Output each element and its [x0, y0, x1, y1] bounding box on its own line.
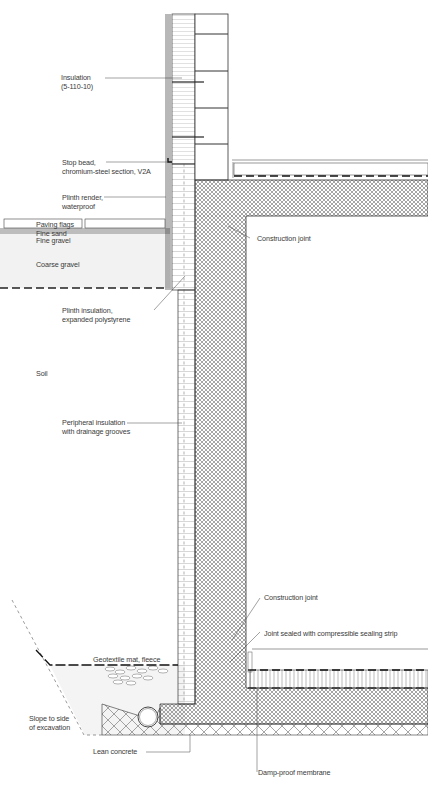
label-plinth-render: Plinth render, waterproof: [62, 193, 103, 211]
upper-floor: [232, 160, 428, 178]
label-construction-joint-bottom: Construction joint: [264, 593, 318, 602]
gravel-layers: [0, 219, 170, 288]
label-stop-bead: Stop bead, chromium-steel section, V2A: [62, 158, 151, 176]
lower-floor: [248, 649, 428, 688]
label-joint-sealed: Joint sealed with compressible sealing s…: [264, 629, 397, 638]
label-damp-proof-membrane: Damp-proof membrane: [258, 768, 330, 777]
peripheral-insulation: [178, 290, 195, 704]
concrete-structure: [160, 180, 428, 724]
label-coarse-gravel: Coarse gravel: [36, 260, 79, 269]
label-slope: Slope to side of excavation: [29, 714, 70, 732]
label-geotextile: Geotextile mat, fleece: [93, 655, 160, 664]
label-soil: Soil: [36, 369, 48, 378]
label-peripheral-insulation: Peripheral insulation with drainage groo…: [62, 418, 130, 436]
section-drawing: [0, 0, 428, 788]
label-lean-concrete: Lean concrete: [93, 747, 137, 756]
label-insulation: Insulation (5-110-10): [61, 73, 93, 91]
label-paving-flags: Paving flags: [36, 220, 74, 229]
label-construction-joint-top: Construction joint: [257, 234, 311, 243]
label-plinth-insulation: Plinth insulation, expanded polystyrene: [62, 306, 130, 324]
label-fine-gravel: Fine gravel: [36, 236, 70, 245]
